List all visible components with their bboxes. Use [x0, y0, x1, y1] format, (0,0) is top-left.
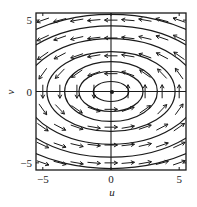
- field-arrow: [122, 36, 135, 40]
- field-arrow: [54, 124, 66, 130]
- field-arrow: [37, 52, 48, 60]
- x-tick-label: 5: [176, 173, 182, 185]
- field-arrow: [54, 36, 66, 41]
- field-arrow: [122, 107, 134, 112]
- field-arrow: [175, 68, 183, 79]
- y-tick-label: 5: [27, 14, 33, 26]
- field-arrow: [71, 37, 84, 41]
- y-tick-label: −5: [20, 157, 32, 169]
- x-axis-label: u: [109, 186, 115, 198]
- field-arrow: [139, 35, 152, 39]
- field-arrow: [174, 52, 185, 60]
- x-tick-label: −5: [37, 173, 49, 185]
- field-arrow: [87, 18, 100, 22]
- y-tick-label: 0: [27, 86, 33, 98]
- field-arrow: [39, 68, 47, 79]
- field-arrow: [88, 54, 101, 58]
- field-arrow: [156, 160, 169, 164]
- field-arrow: [88, 72, 100, 77]
- x-tick-label: 0: [108, 173, 114, 185]
- y-axis-label: v: [4, 89, 16, 94]
- field-arrow: [39, 104, 47, 115]
- field-arrow: [54, 18, 67, 22]
- field-arrow: [175, 104, 183, 115]
- field-arrow: [122, 18, 135, 22]
- field-arrow: [71, 144, 84, 148]
- field-arrow: [122, 161, 135, 165]
- field-arrow: [173, 35, 185, 41]
- field-arrow: [156, 124, 168, 130]
- field-arrow: [173, 142, 185, 148]
- field-arrow: [54, 53, 66, 59]
- field-arrow: [139, 142, 152, 146]
- field-arrow: [139, 160, 152, 164]
- equilibrium-point: [110, 90, 114, 94]
- phase-portrait-figure: −505−505 u v: [0, 0, 197, 207]
- field-arrow: [87, 161, 100, 165]
- field-arrow: [156, 142, 168, 147]
- field-arrow: [122, 125, 135, 129]
- field-arrow: [88, 143, 101, 147]
- field-arrow: [156, 53, 168, 59]
- field-arrow: [37, 123, 48, 131]
- field-arrow: [37, 142, 49, 148]
- field-arrow: [71, 19, 84, 23]
- field-arrow: [174, 123, 185, 131]
- field-arrow: [37, 35, 49, 41]
